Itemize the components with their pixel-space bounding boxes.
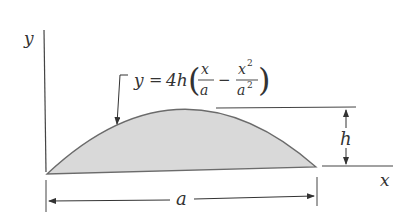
x-axis-label: x: [380, 170, 390, 190]
curve-equation: y = 4h ( x a − x 2 a 2 ): [133, 58, 270, 99]
equation-equals: =: [149, 70, 162, 89]
parabolic-area: [47, 109, 316, 174]
fraction1-numerator: x: [201, 61, 209, 77]
width-label: a: [176, 188, 187, 209]
equation-leader-arrow: [117, 75, 128, 124]
height-label: h: [340, 128, 352, 149]
equation-minus: −: [218, 71, 231, 89]
fraction2-numerator-exponent: 2: [247, 58, 253, 68]
fraction2-numerator: x: [238, 61, 246, 77]
width-dimension-arrow-left: [49, 200, 170, 201]
fraction2-denominator-exponent: 2: [247, 80, 253, 90]
width-dimension-arrow-right: [194, 196, 314, 199]
y-axis-label: y: [23, 28, 34, 48]
equation-close-paren: ): [258, 61, 270, 99]
fraction2-denominator: a: [237, 82, 245, 98]
equation-lhs: y: [133, 70, 144, 90]
fraction1-denominator: a: [200, 82, 208, 98]
y-axis: [44, 30, 46, 172]
peak-reference-line: [216, 107, 356, 108]
equation-coefficient: 4h: [165, 70, 188, 90]
parabola-diagram: y x h a y = 4h ( x a − x 2 a 2 ): [0, 0, 405, 223]
